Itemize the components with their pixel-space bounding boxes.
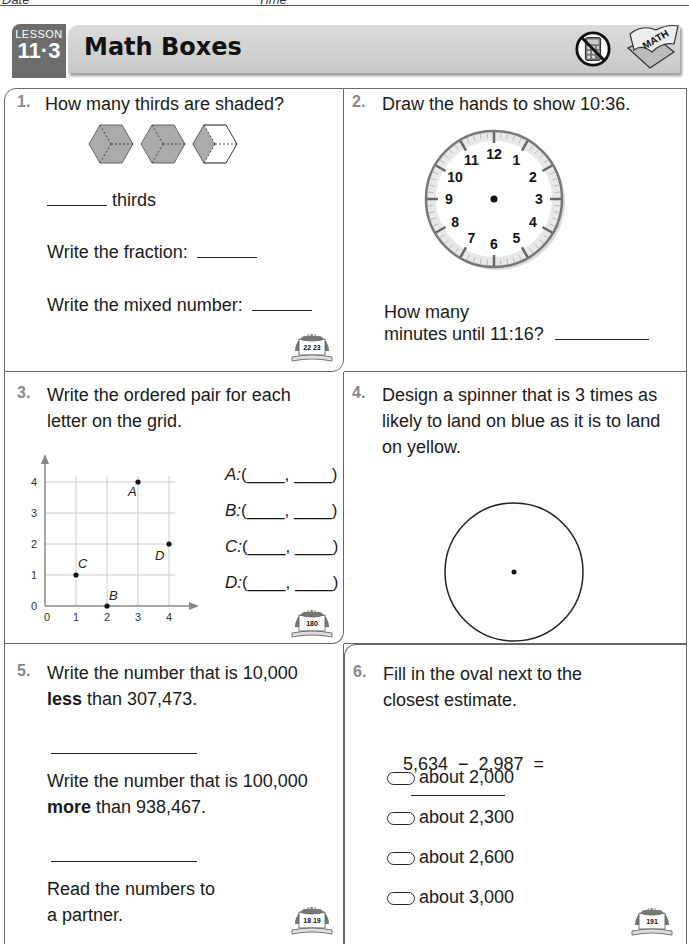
minutes-question-line2-row: minutes until 11:16?: [384, 323, 649, 345]
mixed-number-row: Write the mixed number:: [47, 292, 312, 318]
clock-number: 11: [464, 152, 479, 168]
ordered-pair-row[interactable]: A:(____, ____): [225, 464, 345, 500]
estimate-option[interactable]: about 2,000: [387, 765, 514, 805]
no-calculator-icon: [574, 30, 612, 68]
problem-5-box: 5. Write the number that is 10,000 less …: [4, 644, 344, 944]
clock-number: 2: [529, 169, 537, 185]
ordered-pair-blanks[interactable]: (____, ____): [241, 501, 337, 520]
x-tick-label: 1: [73, 611, 79, 623]
problem-question: Write the ordered pair for each letter o…: [47, 382, 291, 434]
problem-number: 2.: [352, 93, 365, 111]
ordered-pair-row[interactable]: C:(____, ____): [225, 536, 345, 572]
problem-number: 3.: [17, 384, 30, 402]
clock-number: 8: [451, 214, 459, 230]
clock-face[interactable]: 121234567891011: [422, 127, 568, 273]
y-tick-label: 1: [31, 569, 37, 581]
estimate-option[interactable]: about 3,000: [387, 885, 514, 925]
x-tick-label: 0: [44, 611, 50, 623]
more-keyword: more: [47, 797, 91, 817]
thirds-answer-blank[interactable]: [47, 204, 107, 206]
grid-point-label: A: [127, 484, 137, 499]
problem-number: 1.: [17, 93, 30, 111]
fraction-answer-blank[interactable]: [197, 256, 257, 258]
clock-minute-tick: [555, 192, 561, 193]
clock-minute-tick: [487, 132, 488, 138]
grid-point-d: [166, 541, 171, 546]
question-line-3: on yellow.: [382, 434, 660, 460]
x-axis-arrow: [189, 602, 199, 610]
mixed-number-answer-blank[interactable]: [252, 309, 312, 311]
question-line-1: Design a spinner that is 3 times as: [382, 382, 660, 408]
grid-point-label: B: [109, 588, 118, 603]
spinner-center-dot: [512, 570, 517, 575]
y-tick-label: 4: [31, 476, 37, 488]
estimate-option-label: about 2,000: [419, 767, 514, 787]
ordered-pair-blanks[interactable]: (____, ____): [241, 465, 337, 484]
estimate-option-label: about 3,000: [419, 887, 514, 907]
ordered-pair-label: C:: [225, 537, 242, 556]
ordered-pair-row[interactable]: B:(____, ____): [225, 500, 345, 536]
srb-pages: 180: [306, 620, 318, 627]
estimate-option[interactable]: about 2,300: [387, 805, 514, 845]
clock-minute-tick: [427, 192, 433, 193]
y-axis-arrow: [41, 454, 49, 464]
srb-book-icon: SRB 22 23: [289, 321, 335, 365]
thirds-label: thirds: [112, 190, 156, 210]
grid-point-label: C: [78, 556, 88, 571]
srb-label: SRB: [302, 604, 322, 614]
spinner-circle[interactable]: [444, 498, 586, 646]
partner-note-line2: a partner.: [47, 902, 215, 928]
less-keyword: less: [47, 689, 82, 709]
partner-note: Read the numbers to a partner.: [47, 876, 215, 928]
page-title: Math Boxes: [84, 33, 242, 61]
lesson-header: LESSON 11·3 Math Boxes MATH: [6, 22, 686, 80]
more-answer-blank[interactable]: [51, 860, 197, 862]
more-question: Write the number that is 100,000 more th…: [47, 768, 308, 820]
grid-point-c: [73, 572, 78, 577]
less-question-line1: Write the number that is 10,000: [47, 660, 298, 686]
less-answer-blank[interactable]: [51, 752, 197, 754]
problem-number: 4.: [352, 384, 365, 402]
srb-label: SRB: [302, 328, 322, 338]
ordered-pair-blanks[interactable]: (____, ____): [242, 537, 338, 556]
oval-radio[interactable]: [387, 892, 415, 905]
clock-number: 4: [529, 214, 537, 230]
clock-number: 9: [445, 191, 453, 207]
clock-minute-tick: [500, 260, 501, 266]
oval-radio[interactable]: [387, 772, 415, 785]
minutes-question: How many minutes until 11:16?: [384, 301, 649, 345]
problem-2-box: 2. Draw the hands to show 10:36. 1212345…: [344, 88, 687, 372]
estimate-option-label: about 2,300: [419, 807, 514, 827]
less-question-rest: than 307,473.: [82, 689, 197, 709]
srb-book-icon: SRB 18 19: [289, 894, 335, 938]
hexagon-2: [141, 125, 185, 163]
ordered-pair-label: B:: [225, 501, 241, 520]
problem-question: Draw the hands to show 10:36.: [382, 91, 630, 117]
srb-pages: 18 19: [303, 917, 321, 924]
minutes-answer-blank[interactable]: [555, 338, 649, 340]
date-time-rule: [0, 5, 689, 6]
y-tick-label: 0: [31, 600, 37, 612]
clock-number: 10: [447, 169, 463, 185]
hexagon-3: [193, 125, 237, 163]
problem-6-box: 6. Fill in the oval next to the closest …: [344, 644, 687, 944]
minutes-question-line1: How many: [384, 301, 649, 323]
x-tick-label: 3: [135, 611, 141, 623]
less-question: Write the number that is 10,000 less tha…: [47, 660, 298, 712]
oval-radio[interactable]: [387, 812, 415, 825]
grid-point-label: D: [155, 548, 164, 563]
clock-number: 3: [535, 191, 543, 207]
ordered-pair-label: A:: [225, 465, 241, 484]
hexagon-fractions: [87, 121, 239, 167]
estimate-option-label: about 2,600: [419, 847, 514, 867]
estimate-option[interactable]: about 2,600: [387, 845, 514, 885]
clock-number: 6: [490, 236, 498, 252]
fraction-row: Write the fraction:: [47, 239, 257, 265]
oval-radio[interactable]: [387, 852, 415, 865]
problem-1-box: 1. How many thirds are shaded? thirds Wr…: [4, 88, 344, 372]
more-question-line2: more than 938,467.: [47, 794, 308, 820]
minutes-question-line2: minutes until 11:16?: [384, 324, 544, 344]
fraction-prompt: Write the fraction:: [47, 242, 188, 262]
srb-book-icon: SRB 180: [289, 597, 335, 641]
ordered-pair-blanks[interactable]: (____, ____): [242, 573, 338, 592]
